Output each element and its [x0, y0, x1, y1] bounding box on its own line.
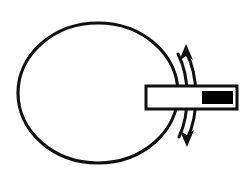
- shaft-inner-fill: [202, 91, 233, 104]
- diagram-svg: [0, 0, 248, 179]
- diagram-canvas: [0, 0, 248, 179]
